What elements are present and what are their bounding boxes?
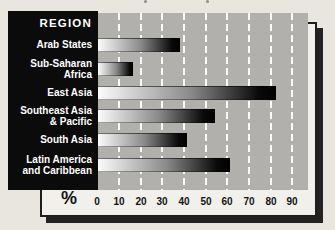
- plot-area: [98, 13, 308, 190]
- bar-east-asia: [98, 86, 276, 100]
- region-label-east-asia: East Asia: [8, 88, 92, 99]
- bar-latin-america-caribbean: [98, 158, 230, 172]
- bar-south-asia: [98, 133, 187, 147]
- x-tick-80: 80: [265, 196, 276, 207]
- x-tick-90: 90: [286, 196, 297, 207]
- gridline-70: [248, 13, 250, 190]
- bar-arab-states: [98, 38, 180, 52]
- bar-sub-saharan-africa: [98, 62, 133, 76]
- region-label-sub-saharan-africa: Sub-Saharan Africa: [8, 59, 92, 80]
- region-label-southeast-asia-pacific: Southeast Asia & Pacific: [8, 106, 92, 127]
- x-tick-40: 40: [178, 196, 189, 207]
- axis-unit-label: %: [54, 188, 84, 209]
- region-label-panel: REGION Arab States Sub-Saharan Africa Ea…: [8, 11, 98, 190]
- x-tick-30: 30: [156, 196, 167, 207]
- x-tick-70: 70: [243, 196, 254, 207]
- gridline-80: [270, 13, 272, 190]
- region-label-south-asia: South Asia: [8, 135, 92, 146]
- x-tick-20: 20: [135, 196, 146, 207]
- bar-southeast-asia-pacific: [98, 109, 215, 123]
- column-header: REGION: [39, 17, 92, 29]
- gridline-90: [291, 13, 293, 190]
- x-tick-10: 10: [113, 196, 124, 207]
- bar-chart-figure: REGION Arab States Sub-Saharan Africa Ea…: [0, 0, 335, 230]
- region-label-latin-america-caribbean: Latin America and Caribbean: [8, 155, 92, 176]
- region-label-arab-states: Arab States: [8, 40, 92, 51]
- cropped-text-mark: [144, 0, 147, 3]
- x-tick-50: 50: [200, 196, 211, 207]
- x-tick-0: 0: [94, 196, 100, 207]
- x-tick-60: 60: [221, 196, 232, 207]
- cropped-text-mark: [206, 0, 209, 3]
